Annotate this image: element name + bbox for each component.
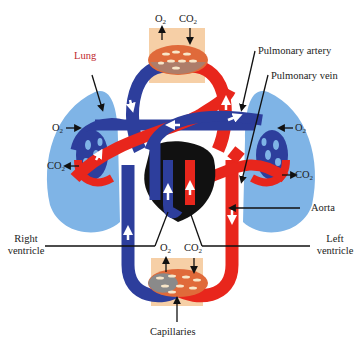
top-co2-label: CO2 xyxy=(179,13,197,28)
left-co2-label: CO2 xyxy=(47,160,65,175)
pulmonary-vein-label: Pulmonary vein xyxy=(271,70,338,82)
left-ventricle-line2: ventricle xyxy=(311,245,359,257)
capillaries-label: Capillaries xyxy=(150,326,196,338)
bottom-co2-label: CO2 xyxy=(184,242,202,257)
right-ventricle-line1: Right xyxy=(6,233,46,245)
left-o2-label: O2 xyxy=(52,122,63,137)
left-ventricle-pointer-diag xyxy=(190,212,202,246)
right-ventricle-line2: ventricle xyxy=(6,245,46,257)
right-ventricle-pointer-diag xyxy=(155,212,168,246)
left-ventricle-label: Left ventricle xyxy=(311,233,359,257)
right-co2-label: CO2 xyxy=(295,169,313,184)
right-ventricle-label: Right ventricle xyxy=(6,233,46,257)
top-o2-label: O2 xyxy=(155,13,166,28)
right-o2-label: O2 xyxy=(295,122,306,137)
left-ventricle-line1: Left xyxy=(311,233,359,245)
aorta-label: Aorta xyxy=(311,202,335,214)
bottom-o2-label: O2 xyxy=(160,242,171,257)
lung-label: Lung xyxy=(74,50,96,62)
pulmonary-artery-label: Pulmonary artery xyxy=(258,45,331,57)
circulatory-diagram: O2 CO2 Lung Pulmonary artery Pulmonary v… xyxy=(0,0,364,353)
